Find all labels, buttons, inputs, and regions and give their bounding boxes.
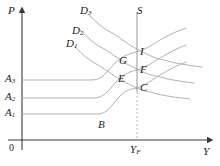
demand-curve-d1-sub: 1 xyxy=(74,42,78,50)
demand-curve-label-d2: D2 xyxy=(72,25,83,37)
price-level-a2-sub: 2 xyxy=(12,95,16,103)
point-label-e: E xyxy=(118,73,125,84)
demand-curve-d3-base: D xyxy=(80,4,88,16)
macro-ad-as-diagram: P Y 0 A3 A2 A1 D3 D2 D1 S YF I G F E C B xyxy=(0,0,220,166)
supply-curve-label-s: S xyxy=(137,5,143,16)
price-level-a1: A1 xyxy=(5,107,15,119)
price-level-a2: A2 xyxy=(5,91,15,103)
demand-curve-label-d3: D3 xyxy=(80,5,91,17)
demand-curve-label-d1: D1 xyxy=(66,38,77,50)
y-axis-label: Y xyxy=(203,146,209,157)
as-curve-1 xyxy=(22,62,186,114)
point-label-c: C xyxy=(140,82,147,93)
demand-curve-d3-sub: 3 xyxy=(88,9,92,17)
demand-curve-d2-sub: 2 xyxy=(80,29,84,37)
price-level-a3-sub: 3 xyxy=(12,77,16,85)
ad-curve-1 xyxy=(74,46,190,99)
origin-label: 0 xyxy=(9,143,14,153)
full-employment-output-label: YF xyxy=(130,144,140,156)
as-curve-3 xyxy=(22,28,186,80)
demand-curve-d1-base: D xyxy=(66,37,74,49)
point-label-i: I xyxy=(140,46,144,57)
price-level-a2-base: A xyxy=(5,90,12,102)
price-level-a1-base: A xyxy=(5,106,12,118)
price-level-a3-base: A xyxy=(5,72,12,84)
point-label-g: G xyxy=(119,55,127,66)
price-level-a3: A3 xyxy=(5,73,15,85)
p-axis-label: P xyxy=(8,5,15,16)
as-curve-2 xyxy=(22,45,186,98)
ad-curve-3 xyxy=(88,14,202,67)
point-label-f: F xyxy=(140,64,147,75)
yf-sub: F xyxy=(136,148,140,156)
diagram-canvas xyxy=(0,0,220,166)
price-level-a1-sub: 1 xyxy=(12,111,16,119)
demand-curve-d2-base: D xyxy=(72,24,80,36)
point-label-b: B xyxy=(98,119,105,130)
